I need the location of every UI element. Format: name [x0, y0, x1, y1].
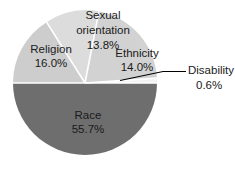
value-disability: 0.6%: [196, 79, 222, 91]
label-sexual-orientation-line1: Sexual: [85, 9, 120, 21]
label-sexual-orientation-line2: orientation: [76, 24, 130, 36]
value-ethnicity: 14.0%: [121, 61, 154, 73]
pie-chart-svg: Sexual orientation 13.8% Religion 16.0% …: [0, 0, 235, 175]
label-religion: Religion: [30, 43, 72, 55]
label-race: Race: [75, 109, 102, 121]
pie-chart: Sexual orientation 13.8% Religion 16.0% …: [0, 0, 235, 175]
value-race: 55.7%: [72, 123, 105, 135]
value-religion: 16.0%: [35, 57, 68, 69]
label-ethnicity: Ethnicity: [115, 47, 159, 59]
label-disability: Disability: [188, 64, 234, 76]
